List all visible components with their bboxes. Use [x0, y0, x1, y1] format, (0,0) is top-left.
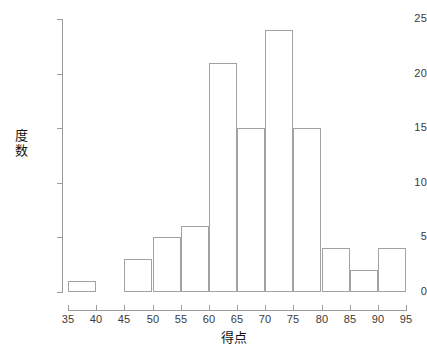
x-axis-tick — [124, 305, 125, 310]
x-axis-tick — [209, 305, 210, 310]
histogram-bar — [68, 281, 96, 292]
histogram-bar — [181, 226, 209, 292]
x-axis-tick-label: 35 — [53, 314, 83, 325]
x-axis-tick-label: 75 — [278, 314, 308, 325]
y-axis-tick — [57, 128, 62, 129]
y-axis-tick — [57, 237, 62, 238]
x-axis-tick-label: 80 — [307, 314, 337, 325]
x-axis-tick — [350, 305, 351, 310]
y-axis-title-char-2: 数 — [12, 143, 30, 158]
y-axis-title: 度 数 — [12, 128, 30, 158]
y-axis-tick — [57, 74, 62, 75]
x-axis-tick — [378, 305, 379, 310]
y-axis-title-char-1: 度 — [12, 128, 30, 143]
y-axis-tick — [57, 19, 62, 20]
x-axis-tick — [265, 305, 266, 310]
x-axis-tick-label: 65 — [222, 314, 252, 325]
x-axis-tick — [406, 305, 407, 310]
histogram-bar — [153, 237, 181, 292]
y-axis-line — [62, 19, 63, 293]
histogram-bar — [124, 259, 152, 292]
x-axis-tick-label: 45 — [109, 314, 139, 325]
x-axis-tick-label: 40 — [81, 314, 111, 325]
x-axis-tick — [237, 305, 238, 310]
histogram-bar — [378, 248, 406, 292]
x-axis-title: 得点 — [0, 330, 427, 345]
y-axis-tick — [57, 183, 62, 184]
x-axis-tick — [293, 305, 294, 310]
x-axis-tick — [181, 305, 182, 310]
histogram-chart: 0510152025 35404550556065707580859095 度 … — [0, 0, 427, 357]
histogram-bar — [322, 248, 350, 292]
y-axis-tick — [57, 292, 62, 293]
histogram-bar — [209, 63, 237, 292]
x-axis-tick-label: 60 — [194, 314, 224, 325]
x-axis-tick-label: 50 — [138, 314, 168, 325]
x-axis-tick-label: 70 — [250, 314, 280, 325]
histogram-bar — [265, 30, 293, 292]
x-axis-tick-label: 55 — [166, 314, 196, 325]
x-axis-line — [68, 310, 407, 311]
plot-area — [68, 19, 406, 292]
histogram-bar — [237, 128, 265, 292]
x-axis-tick — [322, 305, 323, 310]
x-axis-tick — [153, 305, 154, 310]
x-axis-tick — [68, 305, 69, 310]
x-axis-tick-label: 85 — [335, 314, 365, 325]
histogram-bar — [350, 270, 378, 292]
x-axis-tick-label: 90 — [363, 314, 393, 325]
x-axis-tick-label: 95 — [391, 314, 421, 325]
histogram-bar — [293, 128, 321, 292]
x-axis-tick — [96, 305, 97, 310]
